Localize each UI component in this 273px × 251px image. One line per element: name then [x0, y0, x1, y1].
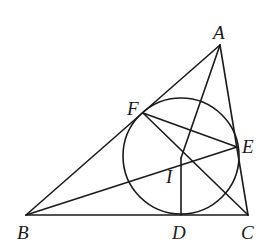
label-c: C [241, 222, 254, 243]
segment-fe [143, 113, 237, 147]
label-e: E [241, 136, 254, 157]
label-d: D [171, 222, 186, 243]
label-a: A [211, 22, 225, 43]
side-ca [220, 45, 248, 215]
geometry-diagram: A F E I B D C [0, 0, 273, 251]
segment-be [26, 147, 237, 215]
label-i: I [165, 166, 174, 187]
label-f: F [126, 98, 139, 119]
label-b: B [17, 222, 29, 243]
